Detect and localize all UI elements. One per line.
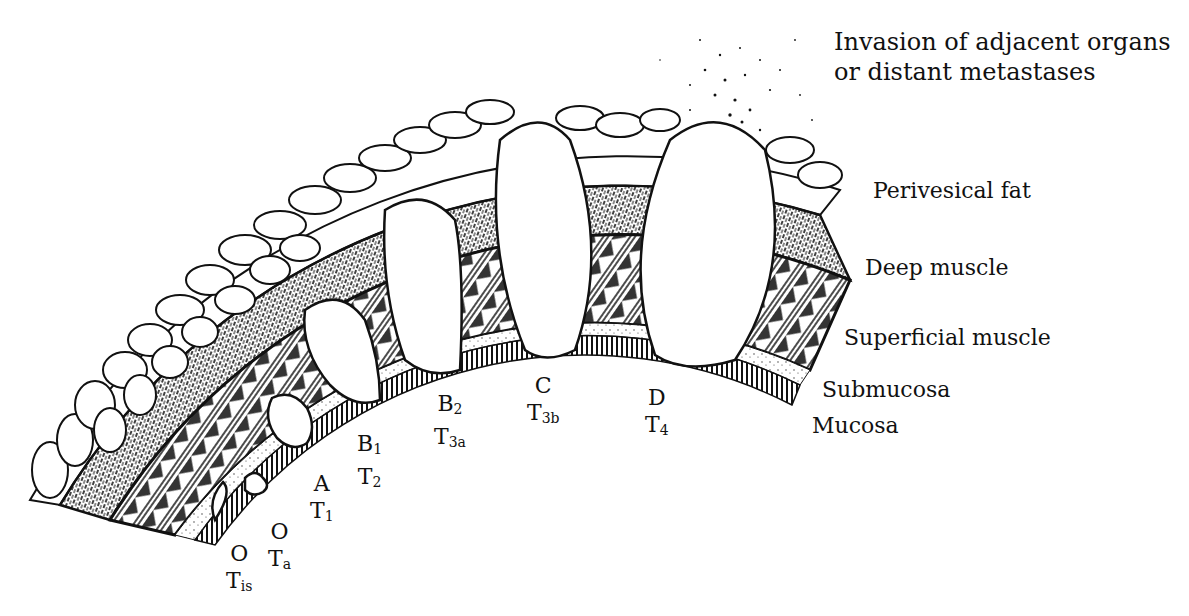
tnm-stage: T3a [434,423,466,456]
tnm-stage: T4 [645,411,669,444]
bladder-wall-illustration [0,0,1189,616]
stage-label-C-T3b: C T3b [527,372,560,432]
bladder-staging-diagram: Invasion of adjacent organs or distant m… [0,0,1189,616]
stage-label-B2-T3a: B2 T3a [434,390,466,456]
perivesical-fat-label: Perivesical fat [873,178,1031,204]
jewett-stage: B1 [357,430,382,463]
deep-muscle-label: Deep muscle [865,255,1008,281]
jewett-stage: C [527,372,560,399]
invasion-label: Invasion of adjacent organs or distant m… [834,27,1170,87]
jewett-stage: A [310,470,334,497]
invasion-label-line1: Invasion of adjacent organs [834,27,1170,57]
tnm-stage: T2 [357,463,382,496]
invasion-label-line2: or distant metastases [834,57,1170,87]
superficial-muscle-label: Superficial muscle [844,325,1051,351]
stage-label-D-T4: D T4 [645,384,669,444]
jewett-stage: O [226,540,252,567]
stage-label-O-Ta: O Ta [268,518,291,578]
tnm-stage: Ta [268,545,291,578]
mucosa-label: Mucosa [812,413,899,439]
tnm-stage: Tis [226,567,252,600]
stage-label-O-Tis: O Tis [226,540,252,600]
stage-label-A-T1: A T1 [310,470,334,530]
stage-label-B1-T2: B1 T2 [357,430,382,496]
jewett-stage: B2 [434,390,466,423]
tnm-stage: T1 [310,497,334,530]
metastasis-stipple [659,39,813,131]
submucosa-label: Submucosa [822,377,950,403]
jewett-stage: D [645,384,669,411]
jewett-stage: O [268,518,291,545]
tnm-stage: T3b [527,399,560,432]
